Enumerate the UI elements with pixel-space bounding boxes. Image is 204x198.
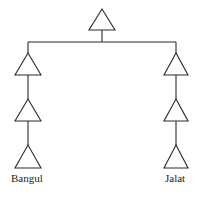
root-triangle-icon [89, 9, 115, 30]
kinship-diagram [0, 0, 204, 198]
left-gen2-triangle-icon [15, 99, 41, 121]
label-bangul: Bangul [11, 172, 43, 184]
right-gen3-triangle-icon [164, 145, 188, 168]
label-jalat: Jalat [165, 172, 185, 184]
left-gen1-triangle-icon [15, 53, 41, 75]
right-gen2-triangle-icon [164, 99, 188, 121]
right-gen1-triangle-icon [164, 53, 188, 75]
left-gen3-triangle-icon [15, 145, 41, 168]
